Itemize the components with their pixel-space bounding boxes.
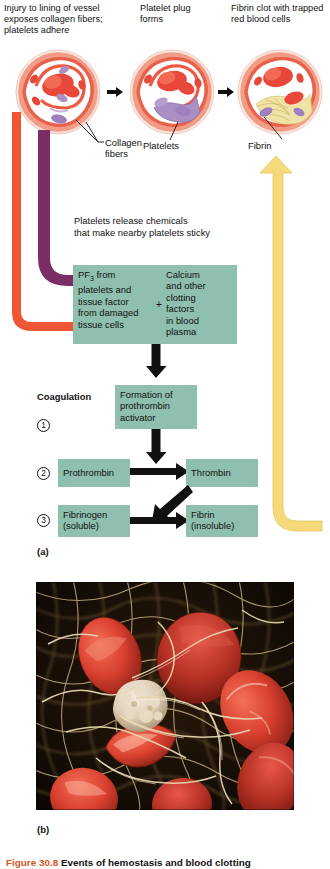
step-caption-2: Platelet plug forms <box>140 3 210 25</box>
cascade-arrow-to-formation <box>146 344 166 378</box>
coagulation-step-number-3: 3 <box>37 514 50 527</box>
panel-b-label: (b) <box>37 824 49 835</box>
callout-platelets: Platelets <box>143 140 179 151</box>
coagulation-heading: Coagulation <box>37 391 91 402</box>
reactant-box-right: Calciumand otherclotting factorsin blood… <box>166 269 232 340</box>
sequence-arrow-1 <box>107 86 123 98</box>
box-fibrin: Fibrin(insoluble) <box>186 505 258 537</box>
reactant-box-left: PF3 from platelets and tissue factor fro… <box>78 269 152 340</box>
micrograph-fibrin-clot <box>36 582 294 810</box>
reactant-box: PF3 from platelets and tissue factor fro… <box>73 265 237 344</box>
box-thrombin: Thrombin <box>186 459 258 487</box>
box-fibrinogen: Fibrinogen(soluble) <box>58 505 130 537</box>
figure-caption-number: Figure 30.8 <box>6 857 58 868</box>
leader-line-fibrin <box>262 115 286 142</box>
sequence-arrow-2 <box>218 86 234 98</box>
figure-caption: Figure 30.8 Events of hemostasis and blo… <box>6 857 251 869</box>
arrow-fibrin-feedback-yellow <box>252 155 330 541</box>
step-caption-1: Injury to lining of vessel exposes colla… <box>4 3 122 37</box>
box-prothrombin: Prothrombin <box>58 459 130 487</box>
reactant-box-plus: + <box>152 269 166 340</box>
cascade-arrow-activator-to-thrombin <box>146 429 166 464</box>
coagulation-step-number-1: 1 <box>37 419 50 432</box>
platelet-release-note: Platelets release chemicals that make ne… <box>74 215 249 238</box>
cascade-arrow-fibrinogen-to-fibrin <box>130 512 189 532</box>
box-prothrombin-activator: Formation ofprothrombinactivator <box>115 385 197 429</box>
figure-caption-text: Events of hemostasis and blood clotting <box>61 857 251 868</box>
coagulation-step-number-2: 2 <box>37 467 50 480</box>
figure-hemostasis-blood-clotting: Injury to lining of vessel exposes colla… <box>0 0 330 869</box>
callout-fibrin: Fibrin <box>248 140 271 151</box>
cascade-arrow-prothrombin-to-thrombin <box>130 463 189 483</box>
step-caption-3: Fibrin clot with trapped red blood cells <box>231 3 327 25</box>
panel-a-label: (a) <box>37 546 49 557</box>
leader-line-platelets <box>168 122 180 142</box>
